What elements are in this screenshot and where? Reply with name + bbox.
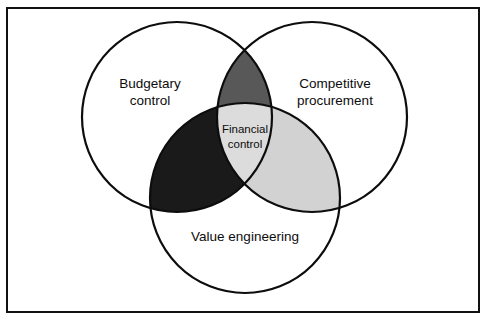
figure-root: Budgetary control Competitive procuremen… [0, 0, 488, 323]
venn-diagram: Budgetary control Competitive procuremen… [0, 0, 488, 323]
label-financial-control-line2: control [228, 138, 263, 150]
label-budgetary-control: Budgetary [119, 76, 181, 91]
label-budgetary-control-line2: control [130, 93, 171, 108]
label-competitive-procurement-line2: procurement [297, 93, 373, 108]
label-value-engineering: Value engineering [191, 229, 299, 244]
label-competitive-procurement: Competitive [299, 76, 370, 91]
label-financial-control: Financial [222, 123, 268, 135]
